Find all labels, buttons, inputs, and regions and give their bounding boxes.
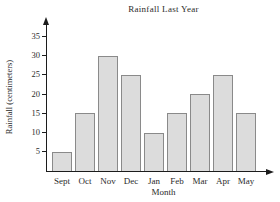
y-tick-dash-35 xyxy=(42,36,47,37)
x-tick-label-oct: Oct xyxy=(73,176,97,186)
bar-jan xyxy=(144,133,164,172)
y-tick-dash-25 xyxy=(42,74,47,75)
bar-dec xyxy=(121,75,141,171)
bar-mar xyxy=(190,94,210,171)
y-tick-dash-10 xyxy=(42,132,47,133)
bar-apr xyxy=(213,75,233,171)
x-tick-label-jan: Jan xyxy=(142,176,166,186)
y-tick-label-10: 10 xyxy=(18,128,40,137)
x-axis-arrow-icon xyxy=(266,169,274,175)
y-tick-label-15: 15 xyxy=(18,109,40,118)
x-tick-label-apr: Apr xyxy=(211,176,235,186)
x-axis-label: Month xyxy=(47,187,280,197)
bar-feb xyxy=(167,113,187,171)
y-tick-label-20: 20 xyxy=(18,90,40,99)
x-tick-label-nov: Nov xyxy=(96,176,120,186)
y-axis-arrow-icon xyxy=(43,17,49,25)
y-tick-label-5: 5 xyxy=(18,147,40,156)
bar-oct xyxy=(75,113,95,171)
y-axis-line xyxy=(46,24,47,172)
y-tick-label-30: 30 xyxy=(18,51,40,60)
rainfall-bar-chart: Rainfall Last Year Rainfall (centimeters… xyxy=(0,0,280,202)
x-tick-label-mar: Mar xyxy=(188,176,212,186)
x-tick-label-feb: Feb xyxy=(165,176,189,186)
y-tick-label-25: 25 xyxy=(18,70,40,79)
bar-sept xyxy=(52,152,72,171)
chart-title: Rainfall Last Year xyxy=(47,4,280,14)
x-tick-label-dec: Dec xyxy=(119,176,143,186)
x-tick-label-sept: Sept xyxy=(50,176,74,186)
y-tick-dash-5 xyxy=(42,151,47,152)
y-tick-dash-15 xyxy=(42,113,47,114)
x-axis-line xyxy=(47,171,267,172)
y-tick-dash-20 xyxy=(42,94,47,95)
x-tick-label-may: May xyxy=(234,176,258,186)
bar-may xyxy=(236,113,256,171)
y-tick-label-35: 35 xyxy=(18,32,40,41)
y-axis-label: Rainfall (centimeters) xyxy=(4,60,14,134)
y-tick-dash-30 xyxy=(42,55,47,56)
bar-nov xyxy=(98,56,118,172)
